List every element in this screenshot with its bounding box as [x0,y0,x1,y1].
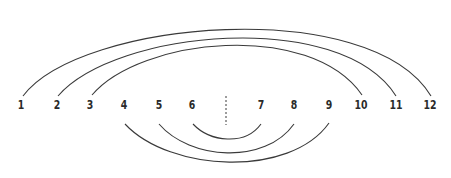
node-label-6: 6 [183,97,200,113]
arc-diagram-canvas [0,0,451,178]
arc-1-12 [23,29,431,96]
node-label-4: 4 [115,97,132,113]
arc-4-9 [125,123,329,162]
arc-2-11 [58,38,396,96]
node-label-2: 2 [48,97,65,113]
node-label-3: 3 [81,97,98,113]
node-label-12: 12 [421,97,438,113]
arc-3-10 [92,45,362,95]
node-label-5: 5 [150,97,167,113]
node-label-8: 8 [285,97,302,113]
node-label-10: 10 [352,97,369,113]
node-label-11: 11 [387,97,404,113]
node-label-7: 7 [252,97,269,113]
node-label-1: 1 [12,97,29,113]
node-label-9: 9 [320,97,337,113]
arc-6-7 [193,124,261,139]
